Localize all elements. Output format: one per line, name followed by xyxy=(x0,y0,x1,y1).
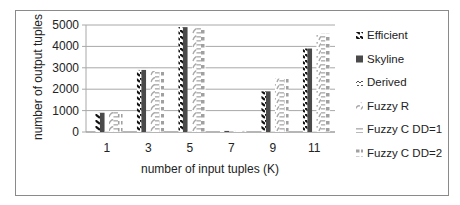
x-axis-ticks: 1357911 xyxy=(103,141,320,155)
legend-label: Derived xyxy=(367,76,407,88)
legend-item-fuzzy-r[interactable]: Fuzzy R xyxy=(356,100,409,112)
x-tick-label: 1 xyxy=(103,141,110,155)
bar-fuzzy-r-7 xyxy=(233,131,238,132)
legend-swatch-efficient xyxy=(356,32,363,39)
legend-label: Fuzzy C DD=1 xyxy=(367,123,442,135)
legend-swatch-skyline xyxy=(356,56,363,63)
y-tick-label: 4000 xyxy=(52,39,79,53)
bar-derived-11 xyxy=(312,131,317,132)
bar-fuzzy-c-dd-2-5 xyxy=(201,27,206,132)
bar-chart: 010002000300040005000 1357911 number of … xyxy=(0,0,460,205)
y-axis-ticks: 010002000300040005000 xyxy=(52,18,79,139)
bar-fuzzy-c-dd-2-7 xyxy=(242,131,247,132)
y-axis-label: number of output tuples xyxy=(31,14,45,140)
legend-swatch-fuzzy-c-dd-1 xyxy=(356,126,363,133)
bar-fuzzy-r-3 xyxy=(150,71,155,132)
legend-item-skyline[interactable]: Skyline xyxy=(356,53,404,65)
y-tick-label: 2000 xyxy=(52,82,79,96)
bar-efficient-9 xyxy=(261,91,266,132)
bar-derived-3 xyxy=(146,131,151,132)
bar-fuzzy-r-9 xyxy=(275,79,280,133)
bar-fuzzy-c-dd-1-11 xyxy=(321,34,326,132)
bar-derived-5 xyxy=(187,131,192,132)
bar-fuzzy-c-dd-2-11 xyxy=(325,34,330,132)
legend-swatch-derived xyxy=(356,79,363,86)
legend-swatch-fuzzy-c-dd-2 xyxy=(356,150,363,157)
bar-efficient-3 xyxy=(137,70,142,132)
bar-efficient-7 xyxy=(220,131,225,132)
legend-item-efficient[interactable]: Efficient xyxy=(356,29,409,41)
y-tick-label: 0 xyxy=(72,125,79,139)
bar-skyline-3 xyxy=(141,70,146,132)
bar-fuzzy-c-dd-1-1 xyxy=(113,112,118,132)
legend-item-derived[interactable]: Derived xyxy=(356,76,407,88)
bar-skyline-9 xyxy=(266,91,271,132)
x-tick-label: 5 xyxy=(186,141,193,155)
bar-fuzzy-r-5 xyxy=(192,27,197,132)
bar-fuzzy-c-dd-1-9 xyxy=(279,79,284,133)
bar-skyline-1 xyxy=(100,113,105,132)
legend[interactable]: EfficientSkylineDerivedFuzzy RFuzzy C DD… xyxy=(356,29,442,159)
legend-swatch-fuzzy-r xyxy=(356,103,363,110)
bar-skyline-5 xyxy=(183,27,188,132)
legend-label: Fuzzy C DD=2 xyxy=(367,147,442,159)
bar-efficient-1 xyxy=(95,113,100,132)
legend-item-fuzzy-c-dd-1[interactable]: Fuzzy C DD=1 xyxy=(356,123,442,135)
bar-fuzzy-c-dd-1-7 xyxy=(238,131,243,132)
legend-label: Fuzzy R xyxy=(367,100,409,112)
bar-fuzzy-r-11 xyxy=(316,34,321,132)
y-tick-label: 3000 xyxy=(52,61,79,75)
bar-fuzzy-r-1 xyxy=(109,112,114,132)
bars xyxy=(95,27,330,132)
bar-fuzzy-c-dd-2-1 xyxy=(118,112,123,132)
bar-skyline-11 xyxy=(307,49,312,132)
legend-item-fuzzy-c-dd-2[interactable]: Fuzzy C DD=2 xyxy=(356,147,442,159)
y-tick-label: 1000 xyxy=(52,104,79,118)
y-tick-label: 5000 xyxy=(52,18,79,32)
x-tick-label: 3 xyxy=(145,141,152,155)
bar-skyline-7 xyxy=(224,131,229,132)
bar-efficient-11 xyxy=(303,49,308,132)
x-axis-label: number of input tuples (K) xyxy=(141,162,279,176)
x-tick-label: 11 xyxy=(308,141,321,155)
bar-fuzzy-c-dd-2-9 xyxy=(284,79,289,133)
x-tick-label: 7 xyxy=(228,141,235,155)
bar-derived-1 xyxy=(104,131,109,132)
bar-fuzzy-c-dd-1-3 xyxy=(155,71,160,132)
bar-fuzzy-c-dd-2-3 xyxy=(159,71,164,132)
legend-label: Efficient xyxy=(367,29,409,41)
legend-label: Skyline xyxy=(367,53,404,65)
bar-fuzzy-c-dd-1-5 xyxy=(196,27,201,132)
bar-efficient-5 xyxy=(178,27,183,132)
bar-derived-9 xyxy=(270,131,275,132)
x-tick-label: 9 xyxy=(269,141,276,155)
